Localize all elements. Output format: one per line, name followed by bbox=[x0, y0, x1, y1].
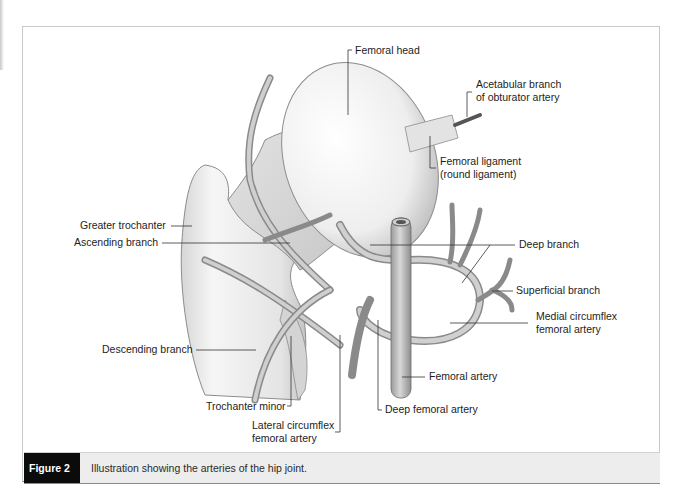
label-descending-branch: Descending branch bbox=[102, 343, 192, 356]
leader-acetabular bbox=[467, 92, 472, 117]
label-acetabular-line2: of obturator artery bbox=[476, 91, 561, 104]
label-medial-circumflex-line1: Medial circumflex bbox=[536, 310, 617, 323]
artery-deep-branch-1 bbox=[450, 205, 453, 262]
label-acetabular-branch: Acetabular branch of obturator artery bbox=[476, 78, 561, 104]
label-femoral-head: Femoral head bbox=[355, 44, 420, 57]
hip-joint-illustration bbox=[0, 0, 682, 504]
label-ascending-branch: Ascending branch bbox=[74, 236, 158, 249]
label-femoral-ligament: Femoral ligament (round ligament) bbox=[440, 155, 521, 181]
figure-caption-bar: Figure 2 Illustration showing the arteri… bbox=[24, 452, 660, 484]
label-medial-circumflex-line2: femoral artery bbox=[536, 323, 617, 336]
label-deep-femoral-artery: Deep femoral artery bbox=[385, 403, 478, 416]
label-medial-circumflex: Medial circumflex femoral artery bbox=[536, 310, 617, 336]
label-greater-trochanter: Greater trochanter bbox=[80, 219, 166, 232]
label-superficial-branch: Superficial branch bbox=[516, 284, 600, 297]
label-femoral-artery: Femoral artery bbox=[429, 370, 497, 383]
label-lateral-circumflex-line1: Lateral circumflex bbox=[252, 419, 334, 432]
label-femoral-ligament-line2: (round ligament) bbox=[440, 168, 521, 181]
label-lateral-circumflex: Lateral circumflex femoral artery bbox=[252, 419, 334, 445]
label-femoral-ligament-line1: Femoral ligament bbox=[440, 155, 521, 168]
label-acetabular-line1: Acetabular branch bbox=[476, 78, 561, 91]
figure-number-label: Figure 2 bbox=[24, 453, 80, 483]
femoral-artery-lumen-inner bbox=[396, 220, 406, 224]
artery-superficial-branch-2 bbox=[492, 290, 512, 310]
acetabular-artery bbox=[455, 115, 480, 125]
leader-lateral-circumflex bbox=[335, 335, 340, 432]
label-deep-branch: Deep branch bbox=[519, 238, 579, 251]
label-trochanter-minor: Trochanter minor bbox=[206, 400, 286, 413]
artery-deep-branch-2 bbox=[460, 210, 480, 265]
figure-caption-text: Illustration showing the arteries of the… bbox=[91, 453, 307, 483]
label-lateral-circumflex-line2: femoral artery bbox=[252, 432, 334, 445]
